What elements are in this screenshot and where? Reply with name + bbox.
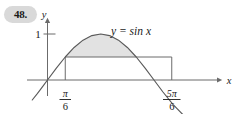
x-tick-label-5pi-over-6-numerator: 5π — [167, 88, 178, 99]
x-tick-label-pi-over-6: π 6 — [60, 88, 72, 112]
x-tick-label-5pi-over-6: 5π 6 — [163, 88, 181, 112]
x-tick-label-5pi-over-6-denominator: 6 — [169, 101, 174, 112]
y-axis-label: y — [41, 9, 47, 20]
sine-curve-plot: y = sin x y x 1 π 6 5π 6 — [0, 0, 242, 114]
curve-equation-label: y = sin x — [110, 25, 152, 38]
y-tick-label-1: 1 — [35, 28, 41, 40]
x-axis-label: x — [226, 75, 232, 86]
x-tick-label-pi-over-6-numerator: π — [63, 88, 69, 99]
figure-container: 48. y = sin x y x 1 — [0, 0, 242, 114]
x-tick-label-pi-over-6-denominator: 6 — [63, 101, 68, 112]
